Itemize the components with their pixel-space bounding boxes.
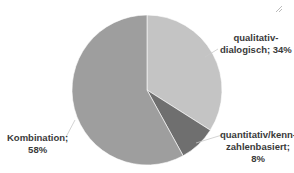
- label-line: zahlenbasiert;: [220, 141, 294, 153]
- data-label-qualitativ: qualitativ- dialogisch; 34%: [220, 32, 292, 56]
- pie-slices: [72, 15, 222, 165]
- label-line: 58%: [7, 144, 68, 156]
- label-line: Kombination;: [7, 132, 68, 144]
- label-line: dialogisch; 34%: [220, 44, 292, 56]
- label-line: quantitativ/kenn-: [220, 129, 294, 141]
- label-line: 8%: [220, 153, 294, 165]
- data-label-kombination: Kombination; 58%: [7, 132, 68, 156]
- data-label-quantitativ: quantitativ/kenn- zahlenbasiert; 8%: [220, 129, 294, 165]
- label-line: qualitativ-: [220, 32, 292, 44]
- resize-handle-icon[interactable]: [276, 6, 282, 12]
